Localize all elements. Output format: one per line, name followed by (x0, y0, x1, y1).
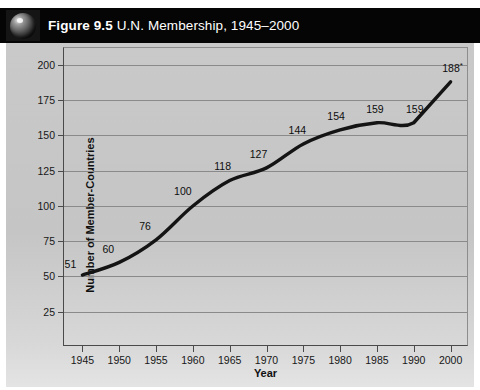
gridline (64, 171, 467, 172)
gridline (64, 100, 467, 101)
globe-sphere (10, 13, 36, 39)
data-point-label: 118 (214, 160, 231, 172)
x-axis-tick-label: 1945 (71, 354, 94, 366)
footnote-asterisk: * (460, 60, 463, 69)
x-axis-tick-label: 2000 (439, 354, 462, 366)
x-axis-tick-label: 1990 (402, 354, 425, 366)
y-axis-tick (58, 171, 64, 172)
gridline (64, 312, 467, 313)
data-point-label: 51 (65, 258, 77, 270)
x-axis-tick (340, 345, 341, 352)
globe-icon (6, 10, 40, 41)
x-axis-tick (156, 345, 157, 352)
y-axis-tick-label: 75 (43, 235, 55, 247)
data-point-label: 159 (366, 103, 384, 115)
data-point-label: 144 (289, 124, 307, 136)
figure-number: Figure 9.5 (48, 18, 113, 33)
plot-area: 255075100125150175200 194519501955196019… (63, 47, 468, 346)
figure-container: Figure 9.5 U.N. Membership, 1945–2000 Nu… (0, 0, 480, 390)
x-axis-tick-label: 1970 (255, 354, 278, 366)
data-point-label: 100 (174, 185, 192, 197)
gridline (64, 206, 467, 207)
data-point-label: 127 (250, 148, 268, 160)
data-point-label: 76 (139, 220, 151, 232)
x-axis-tick-label: 1980 (328, 354, 351, 366)
gridline (64, 135, 467, 136)
x-axis-tick-label: 1965 (218, 354, 241, 366)
y-axis-tick (58, 100, 64, 101)
data-point-label: 60 (102, 243, 114, 255)
y-axis-tick-label: 100 (37, 200, 55, 212)
gridline (64, 241, 467, 242)
x-axis-tick (414, 345, 415, 352)
y-axis-tick-label: 150 (37, 129, 55, 141)
x-axis-tick-label: 1960 (181, 354, 204, 366)
y-axis-tick-label: 25 (43, 306, 55, 318)
y-axis-tick-label: 50 (43, 270, 55, 282)
x-axis-title: Year (63, 367, 468, 379)
figure-caption: U.N. Membership, 1945–2000 (113, 18, 300, 33)
data-point-label: 159 (406, 103, 424, 115)
y-axis-tick (58, 241, 64, 242)
y-axis-tick (58, 65, 64, 66)
y-axis-tick (58, 276, 64, 277)
data-point-label: 188* (442, 60, 463, 74)
x-axis-tick-label: 1950 (108, 354, 131, 366)
gridline (64, 65, 467, 66)
x-axis-tick (230, 345, 231, 352)
figure-title: Figure 9.5 U.N. Membership, 1945–2000 (48, 18, 299, 33)
y-axis-tick-label: 125 (37, 165, 55, 177)
x-axis-tick (82, 345, 83, 352)
data-point-label: 154 (327, 110, 345, 122)
y-axis-tick-label: 175 (37, 94, 55, 106)
y-axis-tick-label: 200 (37, 59, 55, 71)
x-axis-tick (451, 345, 452, 352)
x-axis-tick (193, 345, 194, 352)
figure-title-bar: Figure 9.5 U.N. Membership, 1945–2000 (0, 8, 480, 43)
series-line (64, 48, 467, 345)
x-axis-tick (303, 345, 304, 352)
chart-panel: Number of Member-Countries Year 25507510… (6, 43, 474, 387)
x-axis-tick-label: 1985 (365, 354, 388, 366)
x-axis-tick-label: 1975 (292, 354, 315, 366)
y-axis-tick (58, 206, 64, 207)
gridline (64, 276, 467, 277)
x-axis-tick (377, 345, 378, 352)
x-axis-tick-label: 1955 (144, 354, 167, 366)
x-axis-tick (119, 345, 120, 352)
y-axis-tick (58, 312, 64, 313)
series-path (82, 82, 450, 275)
y-axis-tick (58, 135, 64, 136)
x-axis-tick (267, 345, 268, 352)
